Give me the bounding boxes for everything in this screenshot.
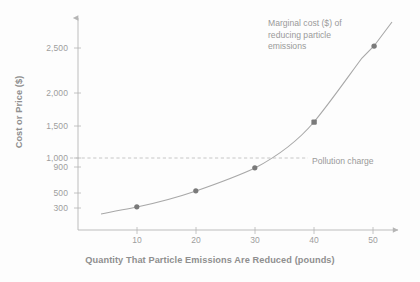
marginal-cost-annotation: Marginal cost ($) of reducing particle e… [268, 18, 393, 53]
data-point [252, 165, 257, 170]
y-tick-label: 1,500 [28, 121, 68, 131]
x-axis-title: Quantity That Particle Emissions Are Red… [0, 255, 420, 265]
x-tick-label: 40 [302, 235, 326, 245]
data-point [193, 188, 198, 193]
data-point [134, 204, 139, 209]
y-axis-ticks [74, 48, 81, 208]
x-tick-label: 20 [184, 235, 208, 245]
y-axis-title: Cost or Price ($) [14, 62, 24, 162]
x-tick-label: 30 [243, 235, 267, 245]
y-tick-label: 900 [28, 162, 68, 172]
annotation-line-3: emissions [268, 41, 393, 53]
annotation-line-1: Marginal cost ($) of [268, 18, 393, 30]
x-axis-ticks [137, 227, 373, 234]
x-tick-label: 10 [125, 235, 149, 245]
y-tick-label: 500 [28, 188, 68, 198]
y-tick-label: 300 [28, 203, 68, 213]
chart-figure: 2,500 2,000 1,500 1,000 900 500 300 10 2… [0, 0, 420, 282]
x-tick-label: 50 [361, 235, 385, 245]
pollution-charge-label: Pollution charge [312, 156, 374, 166]
data-point [311, 119, 316, 124]
y-tick-label: 2,000 [28, 88, 68, 98]
data-point-markers [134, 43, 377, 209]
annotation-line-2: reducing particle [268, 30, 393, 42]
y-tick-label: 2,500 [28, 43, 68, 53]
